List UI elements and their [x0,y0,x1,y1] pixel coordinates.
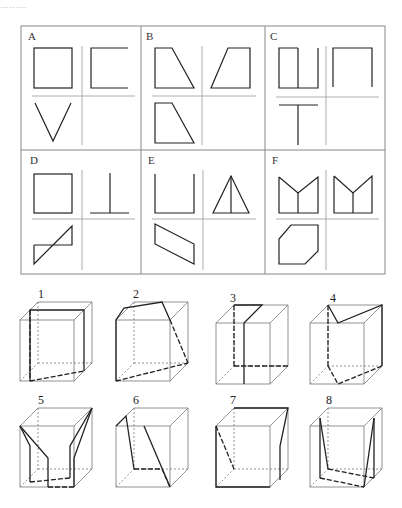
cube-options: 1 2 3 4 [0,0,402,508]
cube-option-1[interactable] [20,302,92,381]
cube-option-8[interactable] [310,408,382,487]
cube-option-6[interactable] [116,408,188,487]
cube-label-5: 5 [38,393,44,407]
cube-label-7: 7 [230,393,236,407]
cube-label-8: 8 [326,393,332,407]
cube-label-3: 3 [230,291,236,305]
cube-option-2[interactable] [116,302,188,381]
cube-label-6: 6 [133,393,139,407]
cube-label-4: 4 [330,291,336,305]
cube-option-7[interactable] [216,408,288,487]
cube-label-1: 1 [38,287,44,301]
cube-option-4[interactable] [310,305,382,384]
cube-option-5[interactable] [20,408,92,487]
cube-label-2: 2 [133,287,139,301]
cube-option-3[interactable] [216,305,288,384]
